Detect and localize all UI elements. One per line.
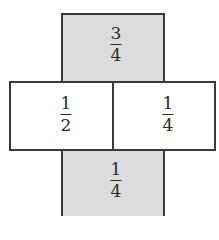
numerator: 1 bbox=[61, 94, 72, 112]
denominator: 4 bbox=[111, 46, 122, 64]
numerator: 1 bbox=[163, 94, 174, 112]
denominator: 4 bbox=[111, 182, 122, 200]
fraction-middle-left: 1 2 bbox=[61, 94, 72, 134]
fraction-bottom: 1 4 bbox=[111, 160, 122, 200]
denominator: 4 bbox=[163, 116, 174, 134]
denominator: 2 bbox=[61, 116, 72, 134]
fraction-middle-right: 1 4 bbox=[163, 94, 174, 134]
numerator: 3 bbox=[111, 24, 122, 42]
numerator: 1 bbox=[111, 160, 122, 178]
fraction-top: 3 4 bbox=[111, 24, 122, 64]
